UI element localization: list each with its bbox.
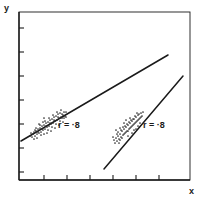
x-axis-label: x: [189, 187, 194, 196]
plot-canvas: r = ·8r = ·8: [0, 0, 201, 201]
correlation-label: r = ·8: [58, 120, 80, 130]
scatter-plot-figure: r = ·8r = ·8 y x: [0, 0, 201, 201]
y-axis-label: y: [4, 4, 9, 13]
correlation-label: r = ·8: [143, 120, 165, 130]
correlation-labels: r = ·8r = ·8: [58, 120, 165, 130]
axis-ticks: [19, 28, 159, 180]
regression-lines: [21, 55, 183, 169]
data-points: [29, 109, 144, 144]
axis-frame: [19, 12, 190, 180]
